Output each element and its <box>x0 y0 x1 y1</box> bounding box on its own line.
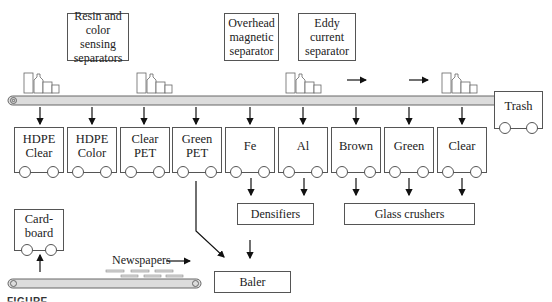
newspapers-icon <box>106 270 183 277</box>
figure-caption: FIGURE <box>7 296 48 302</box>
densifiers-box: Densifiers <box>237 203 314 225</box>
wheel-icon <box>205 166 217 178</box>
bin-clear: Clear <box>437 127 487 173</box>
wheel-icon <box>21 244 33 256</box>
wheel-icon <box>499 122 511 134</box>
newspapers-label: Newspapers <box>112 253 171 268</box>
bin-label: Clear <box>25 146 52 160</box>
bin-label: Card- <box>25 212 53 226</box>
bin-label: Green <box>394 139 425 153</box>
bin-label: Fe <box>244 139 257 153</box>
wheel-icon <box>417 166 429 178</box>
glass-crushers-label: Glass crushers <box>375 207 445 221</box>
bin-label: Brown <box>339 139 373 153</box>
baler-box: Baler <box>214 271 291 293</box>
wheel-icon <box>364 166 376 178</box>
wheel-icon <box>100 166 112 178</box>
bin-label: Clear <box>448 139 475 153</box>
wheel-icon <box>72 166 84 178</box>
bin-al: Al <box>278 127 328 173</box>
wheel-icon <box>442 166 454 178</box>
wheel-icon <box>526 122 538 134</box>
bin-label: PET <box>186 146 208 160</box>
bin-label: board <box>25 226 53 240</box>
bin-hdpe-color: HDPE Color <box>67 127 117 173</box>
wheel-icon <box>311 166 323 178</box>
bin-label: Color <box>78 146 106 160</box>
containers-icon <box>24 73 59 93</box>
wheel-icon <box>47 166 59 178</box>
bin-label: Green <box>182 132 213 146</box>
bin-brown: Brown <box>331 127 381 173</box>
wheel-icon <box>45 244 57 256</box>
containers-icon <box>137 73 172 93</box>
glass-crushers-box: Glass crushers <box>344 203 475 225</box>
bin-label: PET <box>134 146 156 160</box>
bin-label: HDPE <box>76 132 109 146</box>
wheel-icon <box>258 166 270 178</box>
baler-label: Baler <box>240 275 266 289</box>
bin-green-pet: Green PET <box>172 127 222 173</box>
wheel-icon <box>153 166 165 178</box>
containers-icon <box>442 73 477 93</box>
bin-green: Green <box>384 127 434 173</box>
wheel-icon <box>177 166 189 178</box>
main-conveyor <box>8 96 508 105</box>
bin-label: Al <box>297 139 310 153</box>
densifiers-label: Densifiers <box>251 207 300 221</box>
wheel-icon <box>283 166 295 178</box>
bin-hdpe-clear: HDPE Clear <box>14 127 64 173</box>
newspaper-conveyor <box>8 279 201 288</box>
wheel-icon <box>470 166 482 178</box>
bin-cardboard: Card- board <box>14 209 64 251</box>
wheel-icon <box>336 166 348 178</box>
bin-clear-pet: Clear PET <box>120 127 170 173</box>
bin-label: Clear <box>131 132 158 146</box>
bin-label: Trash <box>504 99 532 113</box>
bin-trash: Trash <box>494 91 543 129</box>
bin-fe: Fe <box>225 127 275 173</box>
containers-icon <box>286 73 321 93</box>
wheel-icon <box>230 166 242 178</box>
bin-label: HDPE <box>23 132 56 146</box>
wheel-icon <box>389 166 401 178</box>
wheel-icon <box>19 166 31 178</box>
wheel-icon <box>125 166 137 178</box>
